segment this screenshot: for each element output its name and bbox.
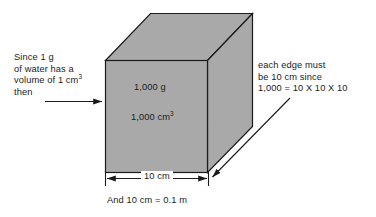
cube-illustration [0, 0, 376, 217]
right-note: each edge mustbe 10 cm since1,000 = 10 X… [258, 60, 348, 95]
left-note-line1: Since 1 g [14, 52, 54, 62]
left-note: Since 1 gof water has avolume of 1 cm3th… [14, 52, 82, 98]
cube-volume-label: 1,000 cm3 [131, 112, 174, 124]
right-note-line2: be 10 cm since [258, 72, 322, 82]
left-note-line3: volume of 1 cm3 [14, 75, 82, 85]
dimension-label: 10 cm [141, 171, 173, 183]
cube-volume-exponent: 3 [170, 110, 174, 117]
right-note-line3: 1,000 = 10 X 10 X 10 [258, 83, 348, 93]
diagram-canvas: Since 1 gof water has avolume of 1 cm3th… [0, 0, 376, 217]
left-note-line2: of water has a [14, 64, 74, 74]
left-note-exponent: 3 [78, 73, 82, 80]
right-note-line1: each edge must [258, 60, 326, 70]
left-note-line4: then [14, 87, 33, 97]
bottom-caption: And 10 cm = 0.1 m [107, 195, 187, 207]
cube-mass-label: 1,000 g [134, 82, 166, 94]
